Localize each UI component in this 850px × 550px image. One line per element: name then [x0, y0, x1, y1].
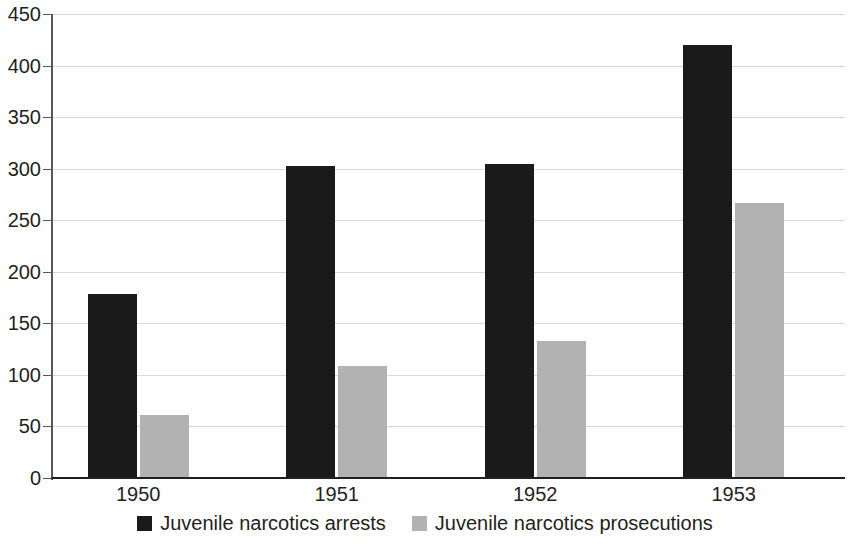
y-axis-tick-label: 200	[0, 262, 41, 282]
y-axis-tick	[43, 169, 52, 170]
legend-item: Juvenile narcotics prosecutions	[412, 513, 713, 533]
legend-swatch-icon	[412, 516, 427, 531]
y-axis-tick	[43, 375, 52, 376]
y-axis-tick-label: 450	[0, 4, 41, 24]
y-axis-tick	[43, 272, 52, 273]
y-axis-tick-label: 100	[0, 365, 41, 385]
x-axis-tick-label: 1953	[684, 484, 784, 504]
y-axis-tick	[43, 220, 52, 221]
y-axis-tick-label: 350	[0, 107, 41, 127]
bar	[735, 203, 784, 478]
x-axis-tick-label: 1952	[485, 484, 585, 504]
x-axis-line	[51, 477, 845, 479]
bar	[683, 45, 732, 478]
bar	[286, 166, 335, 478]
y-axis-tick	[43, 426, 52, 427]
y-axis-tick-label: 0	[0, 468, 41, 488]
bar	[338, 366, 387, 478]
y-axis-tick	[43, 117, 52, 118]
gridline	[51, 14, 845, 15]
y-axis-tick	[43, 323, 52, 324]
y-axis-tick	[43, 14, 52, 15]
y-axis-tick	[43, 478, 52, 479]
legend-swatch-icon	[137, 516, 152, 531]
legend-label: Juvenile narcotics arrests	[160, 513, 386, 533]
bar	[485, 164, 534, 478]
x-axis-tick-label: 1950	[88, 484, 188, 504]
plot-area	[51, 14, 845, 478]
y-axis-tick-label: 250	[0, 210, 41, 230]
y-axis-tick-label: 400	[0, 56, 41, 76]
y-axis-tick	[43, 66, 52, 67]
legend-item: Juvenile narcotics arrests	[137, 513, 386, 533]
y-axis-line	[51, 14, 53, 480]
y-axis-tick-label: 150	[0, 313, 41, 333]
bar	[88, 294, 137, 478]
bar	[140, 415, 189, 478]
y-axis-tick-label: 300	[0, 159, 41, 179]
bar-chart: 050100150200250300350400450 195019511952…	[0, 0, 850, 550]
x-axis-tick-label: 1951	[287, 484, 387, 504]
bar	[537, 341, 586, 478]
legend-label: Juvenile narcotics prosecutions	[435, 513, 713, 533]
chart-legend: Juvenile narcotics arrestsJuvenile narco…	[0, 513, 850, 533]
y-axis-tick-label: 50	[0, 416, 41, 436]
